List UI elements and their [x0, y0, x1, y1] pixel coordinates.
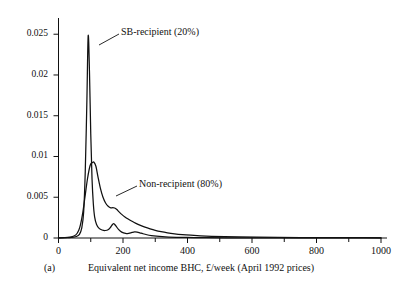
panel-label: (a): [44, 262, 55, 273]
y-tick-label: 0.015: [2, 110, 48, 120]
sb-recipient-annotation: SB-recipient (20%): [121, 26, 199, 37]
x-tick-label: 200: [99, 245, 147, 256]
y-tick-label: 0.02: [2, 69, 48, 79]
non-leader-line: [116, 186, 137, 196]
sb-leader-line: [99, 34, 119, 45]
non-recipient-annotation: Non-recipient (80%): [139, 178, 222, 189]
x-tick-label: 1000: [357, 245, 402, 256]
density-chart: [0, 0, 402, 284]
figure-panel-a: (a) Equivalent net income BHC, £/week (A…: [0, 0, 402, 284]
x-tick-label: 600: [228, 245, 276, 256]
y-tick-label: 0.025: [2, 28, 48, 38]
y-tick-label: 0: [2, 232, 48, 242]
x-tick-label: 800: [293, 245, 341, 256]
x-axis-title: Equivalent net income BHC, £/week (April…: [88, 262, 314, 273]
series-line-2: [59, 162, 382, 238]
y-tick-label: 0.005: [2, 191, 48, 201]
x-tick-label: 0: [35, 245, 83, 256]
x-tick-label: 400: [164, 245, 212, 256]
series-line-1: [59, 35, 382, 238]
y-tick-label: 0.01: [2, 150, 48, 160]
